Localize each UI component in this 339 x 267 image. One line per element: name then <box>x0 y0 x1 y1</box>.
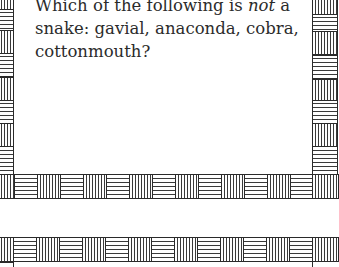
border-tile <box>198 174 222 199</box>
border-tile <box>312 123 338 147</box>
border-tile <box>267 174 291 199</box>
border-tile <box>0 174 15 199</box>
border-tile <box>312 31 338 55</box>
border-tile <box>244 174 268 199</box>
border-tile <box>60 174 84 199</box>
border-tile <box>0 237 14 262</box>
question-emphasis: not <box>248 0 275 15</box>
border-tile <box>36 237 60 262</box>
border-tile <box>151 237 175 262</box>
border-tile <box>289 237 313 262</box>
border-tile <box>221 174 245 199</box>
border-tile <box>174 237 198 262</box>
question-text: Which of the following is not a snake: g… <box>35 0 305 63</box>
border-tile <box>14 174 38 199</box>
border-tile <box>0 53 14 77</box>
border-tile <box>0 100 14 124</box>
border-tile <box>129 174 153 199</box>
border-tile <box>83 174 107 199</box>
border-tile <box>128 237 152 262</box>
border-tile <box>106 174 130 199</box>
border-tile <box>0 77 14 101</box>
border-tile <box>82 237 106 262</box>
border-tile <box>175 174 199 199</box>
border-tile <box>105 237 129 262</box>
border-tile <box>59 237 83 262</box>
border-tile <box>37 174 61 199</box>
border-tile <box>0 123 14 147</box>
border-tile <box>312 146 338 175</box>
border-tile <box>220 237 244 262</box>
border-tile <box>312 237 339 262</box>
border-tile <box>0 146 14 175</box>
border-tile <box>266 237 290 262</box>
border-edge-line <box>0 262 14 263</box>
question-part-1: Which of the following is <box>35 0 248 15</box>
border-tile <box>312 55 338 79</box>
border-tile <box>243 237 267 262</box>
border-tile <box>0 30 14 54</box>
border-tile <box>13 237 37 262</box>
border-tile <box>197 237 221 262</box>
border-edge-line <box>312 261 313 267</box>
border-tile <box>312 174 339 199</box>
border-tile <box>152 174 176 199</box>
border-tile <box>290 174 313 199</box>
border-tile <box>312 100 338 124</box>
